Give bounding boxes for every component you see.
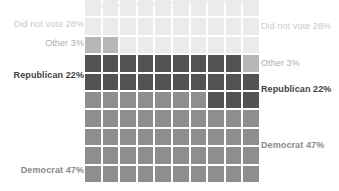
waffle-cell-democrat [191, 110, 207, 126]
waffle-cell-republican [208, 55, 224, 71]
waffle-cell-democrat [138, 147, 154, 163]
waffle-cell-democrat [155, 147, 171, 163]
waffle-cell-democrat [155, 110, 171, 126]
waffle-cell-democrat [208, 110, 224, 126]
waffle-cell-republican [226, 74, 242, 90]
waffle-cell-democrat [138, 110, 154, 126]
waffle-cell-democrat [120, 92, 136, 108]
waffle-cell-democrat [138, 92, 154, 108]
waffle-cell-other [85, 37, 101, 53]
waffle-cell-republican [103, 74, 119, 90]
waffle-cell-democrat [103, 110, 119, 126]
waffle-cell-did-not-vote [155, 37, 171, 53]
waffle-cell-other [103, 37, 119, 53]
waffle-cell-republican [85, 74, 101, 90]
waffle-cell-democrat [138, 166, 154, 182]
waffle-cell-democrat [120, 166, 136, 182]
waffle-cell-democrat [173, 166, 189, 182]
waffle-cell-republican [120, 55, 136, 71]
waffle-cell-democrat [226, 147, 242, 163]
waffle-cell-other [243, 55, 259, 71]
waffle-cell-republican [173, 74, 189, 90]
waffle-cell-democrat [103, 166, 119, 182]
waffle-cell-democrat [243, 166, 259, 182]
waffle-cell-democrat [226, 129, 242, 145]
waffle-cell-did-not-vote [173, 37, 189, 53]
waffle-cell-democrat [85, 129, 101, 145]
waffle-cell-did-not-vote [120, 18, 136, 34]
label-right-other: Other 3% [261, 58, 300, 69]
waffle-cell-republican [226, 92, 242, 108]
waffle-cell-democrat [85, 92, 101, 108]
waffle-cell-democrat [120, 129, 136, 145]
waffle-cell-democrat [243, 110, 259, 126]
waffle-cell-republican [173, 55, 189, 71]
waffle-cell-did-not-vote [226, 37, 242, 53]
waffle-cell-republican [243, 74, 259, 90]
label-right-democrat: Democrat 47% [261, 140, 324, 151]
waffle-cell-democrat [155, 92, 171, 108]
waffle-cell-democrat [120, 147, 136, 163]
waffle-cell-did-not-vote [173, 0, 189, 16]
label-right-republican: Republican 22% [261, 84, 331, 95]
waffle-cell-did-not-vote [243, 0, 259, 16]
waffle-cell-democrat [155, 129, 171, 145]
waffle-cell-republican [243, 92, 259, 108]
waffle-cell-republican [226, 55, 242, 71]
waffle-cell-democrat [226, 110, 242, 126]
waffle-cell-did-not-vote [226, 0, 242, 16]
waffle-cell-democrat [208, 166, 224, 182]
waffle-cell-democrat [243, 129, 259, 145]
waffle-cell-did-not-vote [138, 37, 154, 53]
waffle-cell-democrat [103, 129, 119, 145]
waffle-cell-did-not-vote [191, 0, 207, 16]
waffle-cell-did-not-vote [226, 18, 242, 34]
waffle-cell-democrat [85, 110, 101, 126]
waffle-cell-democrat [103, 92, 119, 108]
waffle-cell-did-not-vote [138, 0, 154, 16]
waffle-cell-democrat [191, 92, 207, 108]
waffle-cell-did-not-vote [191, 18, 207, 34]
label-left-other: Other 3% [45, 38, 84, 49]
waffle-cell-republican [191, 74, 207, 90]
waffle-cell-republican [208, 74, 224, 90]
waffle-cell-democrat [191, 166, 207, 182]
waffle-cell-did-not-vote [155, 0, 171, 16]
waffle-cell-democrat [243, 147, 259, 163]
waffle-cell-did-not-vote [208, 0, 224, 16]
waffle-cell-did-not-vote [120, 37, 136, 53]
waffle-cell-democrat [208, 129, 224, 145]
waffle-cell-democrat [85, 166, 101, 182]
waffle-cell-did-not-vote [138, 18, 154, 34]
waffle-cell-democrat [85, 147, 101, 163]
waffle-cell-democrat [120, 110, 136, 126]
waffle-cell-democrat [191, 147, 207, 163]
waffle-cell-republican [138, 55, 154, 71]
waffle-cell-did-not-vote [85, 18, 101, 34]
waffle-cell-republican [103, 55, 119, 71]
label-left-did-not-vote: Did not vote 28% [14, 19, 84, 30]
waffle-cell-did-not-vote [103, 18, 119, 34]
waffle-cell-democrat [173, 110, 189, 126]
waffle-cell-democrat [173, 92, 189, 108]
waffle-cell-did-not-vote [208, 37, 224, 53]
waffle-cell-democrat [155, 166, 171, 182]
waffle-cell-did-not-vote [173, 18, 189, 34]
waffle-cell-republican [155, 74, 171, 90]
waffle-chart: Did not vote 28% Other 3% Republican 22%… [0, 0, 339, 191]
waffle-cell-democrat [226, 166, 242, 182]
waffle-cell-did-not-vote [155, 18, 171, 34]
waffle-cell-democrat [103, 147, 119, 163]
waffle-cell-did-not-vote [243, 18, 259, 34]
waffle-cell-republican [138, 74, 154, 90]
waffle-cell-republican [155, 55, 171, 71]
waffle-cell-did-not-vote [103, 0, 119, 16]
label-left-republican: Republican 22% [14, 70, 84, 81]
label-left-democrat: Democrat 47% [21, 165, 84, 176]
waffle-cell-did-not-vote [85, 0, 101, 16]
waffle-cell-did-not-vote [120, 0, 136, 16]
waffle-cell-democrat [173, 147, 189, 163]
waffle-cell-republican [191, 55, 207, 71]
waffle-cell-democrat [173, 129, 189, 145]
waffle-cell-democrat [138, 129, 154, 145]
